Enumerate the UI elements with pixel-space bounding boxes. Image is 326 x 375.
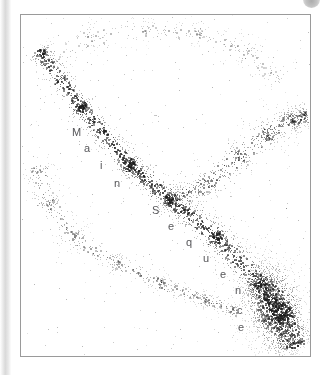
main-sequence-letter: q	[186, 237, 192, 248]
main-sequence-letter: n	[235, 285, 241, 296]
main-sequence-letter: S	[152, 205, 159, 216]
main-sequence-letter: n	[114, 178, 120, 189]
scatter-plot-canvas	[21, 15, 310, 356]
main-sequence-letter: a	[84, 143, 90, 154]
figure-frame: MainSequence	[20, 14, 311, 357]
main-sequence-letter: i	[100, 160, 102, 171]
main-sequence-letter: c	[237, 305, 243, 316]
scanned-figure-page: MainSequence	[0, 0, 326, 375]
page-binding-shadow	[0, 0, 11, 375]
main-sequence-letter: e	[238, 322, 244, 333]
circle-artifact-icon	[303, 0, 320, 8]
main-sequence-letter: e	[168, 221, 174, 232]
main-sequence-letter: u	[203, 253, 209, 264]
main-sequence-letter: M	[72, 127, 81, 138]
main-sequence-letter: e	[220, 269, 226, 280]
